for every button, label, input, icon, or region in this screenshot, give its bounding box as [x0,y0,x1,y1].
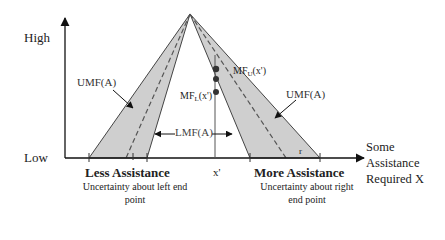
y-axis-low-label: Low [24,151,48,164]
umf-right-label: UMF(A) [286,89,325,100]
umf-left-label: UMF(A) [77,77,116,88]
x-axis-label: Some Assistance Required X [366,139,445,187]
right-uncertainty-caption: Uncertainty about right end point [252,181,362,206]
r-mark-label: r [299,147,302,156]
y-axis-high-label: High [24,31,50,44]
mf-upper-label: MFU(x') [233,66,266,78]
mf-points [213,66,219,95]
mf-lower-label: MFL(x') [180,91,212,103]
more-assistance-caption: More Assistance [254,166,344,179]
mf-lower-point [213,89,219,95]
lmf-label: LMF(A) [175,127,213,138]
less-assistance-caption: Less Assistance [85,166,170,179]
x-prime-label: x' [213,167,220,178]
mf-mid-point [213,76,219,82]
umf-right-arrow [275,100,296,118]
mf-upper-point [213,66,219,72]
left-uncertainty-caption: Uncertainty about left end point [80,181,190,206]
